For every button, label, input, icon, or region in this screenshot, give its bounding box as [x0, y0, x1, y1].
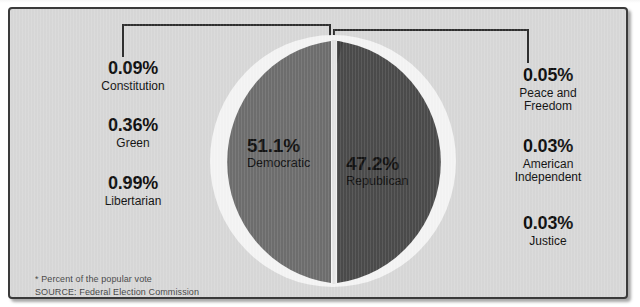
pie-label-democratic: 51.1% Democratic — [247, 136, 310, 170]
callout-libertarian-percent: 0.99% — [68, 174, 198, 193]
callout-american-independent: 0.03% American Independent — [478, 137, 618, 184]
leader-bracket-right — [335, 29, 527, 31]
callout-green-name: Green — [68, 137, 198, 150]
footnote: * Percent of the popular vote SOURCE: Fe… — [35, 273, 199, 299]
chart-stage: 51.1% Democratic 47.2% Republican 0.09% … — [0, 0, 640, 307]
callout-american-independent-percent: 0.03% — [478, 137, 618, 156]
callout-peace-and-freedom: 0.05% Peace and Freedom — [478, 66, 618, 113]
callout-constitution-name: Constitution — [68, 80, 198, 93]
callout-justice: 0.03% Justice — [478, 214, 618, 248]
callout-libertarian-name: Libertarian — [68, 195, 198, 208]
footnote-line-source: SOURCE: Federal Election Commission — [35, 286, 199, 299]
pie-label-republican-name: Republican — [346, 175, 409, 188]
pie-label-republican: 47.2% Republican — [346, 154, 409, 188]
callout-green-percent: 0.36% — [68, 116, 198, 135]
pie-minor-slices-wedge — [337, 41, 343, 64]
callout-peace-and-freedom-name-line2: Freedom — [524, 99, 572, 113]
callout-libertarian: 0.99% Libertarian — [68, 174, 198, 208]
footnote-line-percent-note: * Percent of the popular vote — [35, 273, 199, 286]
callout-peace-and-freedom-percent: 0.05% — [478, 66, 618, 85]
callout-green: 0.36% Green — [68, 116, 198, 150]
callout-american-independent-name: American Independent — [478, 158, 618, 184]
pie-chart-graphic — [207, 34, 457, 288]
callout-constitution-percent: 0.09% — [68, 59, 198, 78]
leader-bracket-left — [124, 24, 329, 26]
callout-peace-and-freedom-name-line1: Peace and — [519, 86, 576, 100]
leader-bracket-right-outer-leg — [527, 29, 529, 63]
callout-justice-percent: 0.03% — [478, 214, 618, 233]
leader-bracket-left-outer-leg — [122, 24, 124, 57]
callout-american-independent-name-line1: American — [523, 157, 574, 171]
callout-american-independent-name-line2: Independent — [515, 170, 582, 184]
chart-panel: 51.1% Democratic 47.2% Republican 0.09% … — [8, 7, 628, 299]
top-edge-artifact — [0, 0, 640, 3]
callout-justice-name: Justice — [478, 235, 618, 248]
pie-label-democratic-name: Democratic — [247, 157, 310, 170]
pie-label-republican-percent: 47.2% — [346, 154, 409, 174]
callout-constitution: 0.09% Constitution — [68, 59, 198, 93]
pie-label-democratic-percent: 51.1% — [247, 136, 310, 156]
callout-peace-and-freedom-name: Peace and Freedom — [478, 87, 618, 113]
